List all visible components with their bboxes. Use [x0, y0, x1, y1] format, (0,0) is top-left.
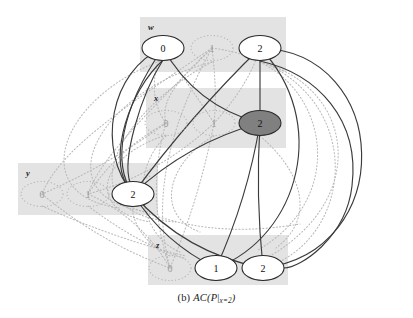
value-node-x-2[interactable]: 2 [239, 111, 281, 136]
value-node-label: 0 [164, 118, 169, 129]
value-node-label: 0 [40, 189, 45, 200]
variable-label-x: x [153, 93, 159, 103]
value-node-label: 2 [261, 263, 266, 274]
caption-subscript: x=2 [220, 297, 232, 305]
value-node-w-2[interactable]: 2 [239, 36, 281, 61]
figure-caption: (b) AC(P|x=2) [0, 292, 413, 305]
value-node-label: 1 [214, 263, 219, 274]
value-node-label: 1 [86, 189, 91, 200]
variable-label-z: z [155, 240, 160, 250]
value-node-label: 2 [258, 118, 263, 129]
value-node-label: 0 [161, 43, 166, 54]
value-node-z-1[interactable]: 1 [195, 256, 237, 281]
value-node-w-0[interactable]: 0 [142, 36, 184, 61]
value-node-label: 2 [258, 43, 263, 54]
value-node-y-2[interactable]: 2 [112, 182, 154, 207]
dotted-edge [260, 136, 300, 248]
variable-label-w: w [148, 22, 154, 32]
variable-label-y: y [25, 168, 30, 178]
constraint-graph-svg: 012012012012 wxyz [0, 0, 413, 318]
caption-prefix: (b) [177, 292, 190, 303]
value-node-label: 0 [168, 263, 173, 274]
value-node-z-2[interactable]: 2 [242, 256, 284, 281]
caption-expression: AC(P|x=2) [193, 292, 235, 303]
caption-main: AC(P [193, 292, 217, 303]
variable-labels-layer: wxyz [25, 22, 160, 250]
value-node-label: 1 [212, 118, 217, 129]
value-node-label: 1 [210, 43, 215, 54]
figure-canvas: 012012012012 wxyz (b) AC(P|x=2) [0, 0, 413, 318]
value-node-label: 2 [131, 189, 136, 200]
caption-close: ) [232, 292, 236, 303]
